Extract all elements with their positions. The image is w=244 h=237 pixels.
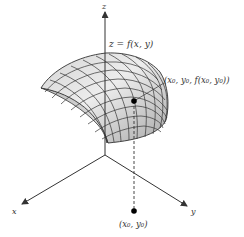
x-axis-label: x	[12, 207, 17, 216]
y-axis-label: y	[190, 207, 196, 216]
surface-diagram: z x y z = f(x, y) (x₀, y₀, f(x₀, y₀)) (x…	[0, 0, 244, 237]
surface-point-label: (x₀, y₀, f(x₀, y₀))	[164, 75, 229, 85]
z-axis-label: z	[101, 2, 107, 11]
domain-point-label: (x₀, y₀)	[119, 219, 147, 229]
x-axis	[22, 155, 105, 204]
domain-point	[131, 208, 137, 214]
y-axis	[105, 155, 187, 206]
surface-label: z = f(x, y)	[108, 39, 154, 49]
surface-point	[131, 98, 137, 104]
